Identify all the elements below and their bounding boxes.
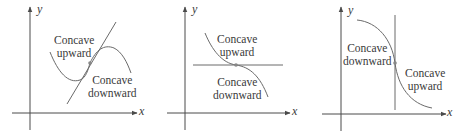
panel-1-graph (12, 7, 137, 130)
panel-3-left-line2: downward (343, 55, 392, 68)
figure-canvas (0, 0, 462, 137)
panel-1-lower-line2: downward (88, 87, 137, 100)
panel-2-lower-line1: Concave (213, 76, 262, 89)
panel-2-x-label: x (292, 104, 297, 119)
panel-2-upper-line1: Concave (217, 33, 257, 46)
panel-1-concave-downward-label: Concave downward (88, 74, 137, 100)
panel-3-right-line1: Concave (405, 67, 445, 80)
panel-1-x-label: x (139, 104, 144, 119)
panel-1-upper-line2: upward (54, 47, 94, 60)
panel-3-concave-upward-label: Concave upward (405, 67, 445, 93)
panel-3-left-line1: Concave (343, 42, 392, 55)
panel-1-y-label: y (37, 2, 42, 17)
panel-2-upper-line2: upward (217, 46, 257, 59)
inflection-point-figure: y x Concave upward Concave downward y x … (0, 0, 462, 137)
panel-3-concave-downward-label: Concave downward (343, 42, 392, 68)
panel-3-right-line2: upward (405, 80, 445, 93)
panel-2-inflection-point (234, 63, 238, 67)
panel-1-upper-line1: Concave (54, 34, 94, 47)
panel-2-y-label: y (192, 2, 197, 17)
panel-2-graph (167, 7, 290, 130)
panel-3-y-label: y (348, 3, 353, 18)
panel-2-lower-line2: downward (213, 89, 262, 102)
panel-2-concave-upward-label: Concave upward (217, 33, 257, 59)
panel-1-inflection-point (88, 61, 92, 65)
panel-3-x-label: x (447, 105, 452, 120)
panel-3-inflection-point (393, 61, 397, 65)
panel-1-concave-upward-label: Concave upward (54, 34, 94, 60)
panel-2-concave-downward-label: Concave downward (213, 76, 262, 102)
panel-1-lower-line1: Concave (88, 74, 137, 87)
